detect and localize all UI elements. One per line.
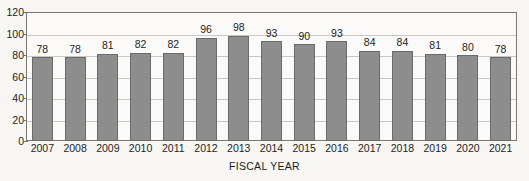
x-axis: 2007200820092010201120122013201420152016… <box>26 143 517 157</box>
bar-value-label: 82 <box>123 39 158 50</box>
y-tick-label: 100 <box>2 28 24 39</box>
bar[interactable] <box>490 57 511 141</box>
bar-group[interactable]: 90 <box>294 12 315 141</box>
bar-group[interactable]: 82 <box>130 12 151 141</box>
x-tick-label: 2020 <box>452 143 485 154</box>
bar-value-label: 90 <box>287 31 322 42</box>
x-axis-title: FISCAL YEAR <box>0 160 529 172</box>
y-tick-label: 40 <box>2 93 24 104</box>
bar-group[interactable]: 93 <box>326 12 347 141</box>
y-tick-mark <box>24 141 28 142</box>
bar-value-label: 84 <box>385 37 420 48</box>
x-tick-label: 2012 <box>190 143 223 154</box>
bar-value-label: 93 <box>254 28 289 39</box>
x-tick-label: 2019 <box>419 143 452 154</box>
bar-group[interactable]: 82 <box>163 12 184 141</box>
bar[interactable] <box>457 55 478 141</box>
bar-value-label: 78 <box>58 44 93 55</box>
x-tick-label: 2007 <box>26 143 59 154</box>
bar-group[interactable]: 78 <box>65 12 86 141</box>
bar[interactable] <box>130 53 151 141</box>
bar-value-label: 98 <box>221 22 256 33</box>
bar-group[interactable]: 81 <box>425 12 446 141</box>
bar[interactable] <box>163 53 184 141</box>
bar-group[interactable]: 98 <box>228 12 249 141</box>
bar-group[interactable]: 81 <box>97 12 118 141</box>
bar-value-label: 82 <box>156 39 191 50</box>
bar-group[interactable]: 78 <box>490 12 511 141</box>
y-tick-label: 60 <box>2 71 24 82</box>
bar[interactable] <box>97 54 118 141</box>
bar[interactable] <box>425 54 446 141</box>
bar[interactable] <box>228 36 249 141</box>
bars-layer: 787881828296989390938484818078 <box>26 12 517 141</box>
x-tick-label: 2010 <box>124 143 157 154</box>
bar-value-label: 80 <box>450 42 485 53</box>
bar[interactable] <box>359 51 380 141</box>
bar[interactable] <box>196 38 217 141</box>
x-tick-label: 2011 <box>157 143 190 154</box>
bar[interactable] <box>261 41 282 141</box>
bar-chart: 020406080100120 787881828296989390938484… <box>0 0 529 181</box>
bar-group[interactable]: 84 <box>359 12 380 141</box>
bar[interactable] <box>65 57 86 141</box>
y-tick-label: 120 <box>2 7 24 18</box>
bar-value-label: 81 <box>90 40 125 51</box>
y-axis: 020406080100120 <box>0 12 24 141</box>
x-tick-label: 2018 <box>386 143 419 154</box>
bar-value-label: 78 <box>483 44 518 55</box>
bar-value-label: 78 <box>25 44 60 55</box>
bar[interactable] <box>392 51 413 141</box>
bar-group[interactable]: 96 <box>196 12 217 141</box>
bar-group[interactable]: 84 <box>392 12 413 141</box>
x-tick-label: 2009 <box>91 143 124 154</box>
y-tick-label: 0 <box>2 136 24 147</box>
y-tick-label: 20 <box>2 114 24 125</box>
bar-value-label: 81 <box>418 40 453 51</box>
x-tick-label: 2013 <box>222 143 255 154</box>
bar-value-label: 93 <box>319 28 354 39</box>
bar-value-label: 84 <box>352 37 387 48</box>
x-tick-label: 2017 <box>353 143 386 154</box>
x-tick-label: 2015 <box>288 143 321 154</box>
x-tick-label: 2016 <box>321 143 354 154</box>
bar[interactable] <box>326 41 347 141</box>
bar[interactable] <box>294 44 315 141</box>
bar-group[interactable]: 78 <box>32 12 53 141</box>
y-tick-label: 80 <box>2 50 24 61</box>
bar[interactable] <box>32 57 53 141</box>
bar-group[interactable]: 80 <box>457 12 478 141</box>
bar-group[interactable]: 93 <box>261 12 282 141</box>
x-tick-label: 2021 <box>484 143 517 154</box>
x-tick-label: 2008 <box>59 143 92 154</box>
bar-value-label: 96 <box>189 24 224 35</box>
x-tick-label: 2014 <box>255 143 288 154</box>
